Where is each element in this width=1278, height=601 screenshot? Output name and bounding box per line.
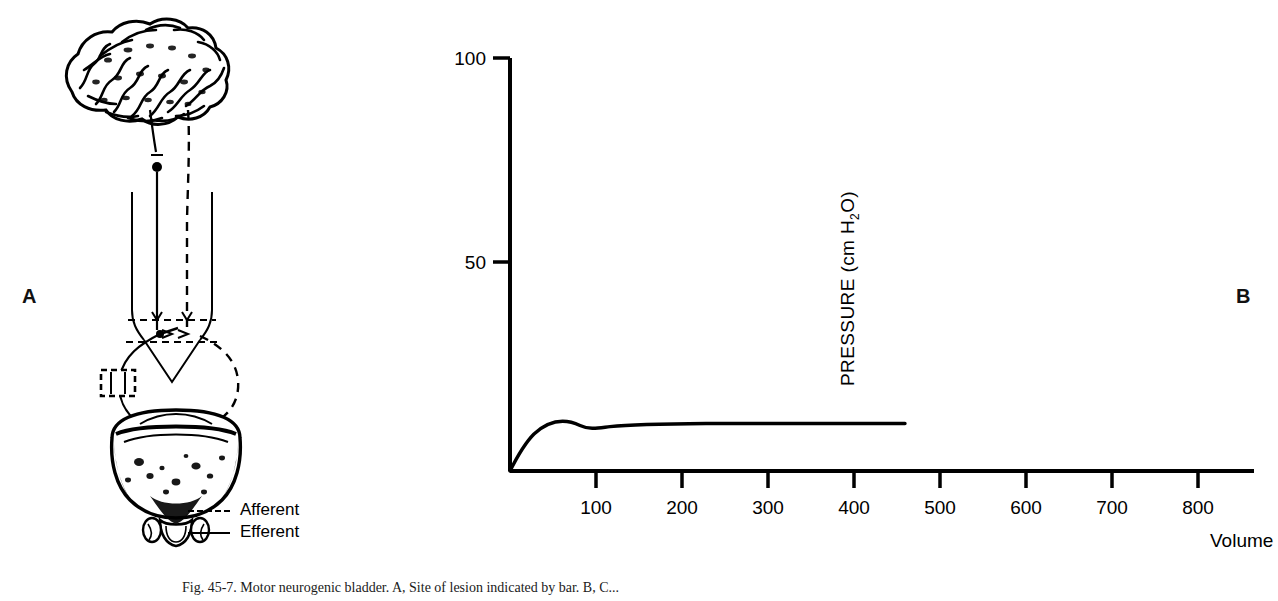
lesion-bar	[101, 370, 135, 396]
x-tick-labels: 100 200 300 400 500 600 700 800	[580, 497, 1214, 518]
x-tick-label: 300	[752, 497, 784, 518]
panel-b-cystometrogram: 100 200 300 400 500 600 700 800 100 50 P…	[430, 0, 1278, 601]
x-tick-label: 500	[924, 497, 956, 518]
legend-efferent-solid-icon	[188, 532, 230, 534]
x-axis-ticks	[596, 471, 1198, 488]
figure-caption: Fig. 45-7. Motor neurogenic bladder. A, …	[182, 580, 1102, 601]
x-tick-label: 400	[838, 497, 870, 518]
x-tick-label: 200	[666, 497, 698, 518]
afferent-pathway-upper	[187, 110, 189, 330]
efferent-neuron-soma	[152, 162, 162, 172]
y-axis-title-subscript: 2	[848, 213, 862, 220]
y-axis-title: PRESSURE (cm H2O)	[837, 191, 862, 386]
x-axis-title: Volume (ml)	[1210, 530, 1278, 552]
legend-afferent-label: Afferent	[240, 500, 299, 520]
bladder-illustration	[112, 410, 241, 546]
legend-afferent-dash-icon	[188, 510, 230, 512]
efferent-pathway-upper	[150, 110, 163, 330]
x-tick-label: 800	[1182, 497, 1214, 518]
y-tick-label: 50	[465, 252, 486, 273]
y-axis-title-tail: O)	[837, 191, 858, 213]
y-axis-ticks	[493, 58, 510, 262]
y-axis-title-main: PRESSURE (cm H	[837, 220, 858, 386]
spinal-cord	[126, 192, 218, 382]
pressure-curve	[510, 421, 905, 471]
panel-a-letter: A	[22, 285, 36, 308]
y-tick-labels: 100 50	[454, 48, 486, 273]
panel-a-diagram: Afferent Efferent	[0, 0, 430, 601]
legend-efferent-label: Efferent	[240, 522, 299, 542]
y-tick-label: 100	[454, 48, 486, 69]
x-tick-label: 100	[580, 497, 612, 518]
y-axis-title-wrap: PRESSURE (cm H2O)	[815, 150, 845, 390]
brain-illustration	[66, 19, 228, 124]
x-tick-label: 600	[1010, 497, 1042, 518]
x-tick-label: 700	[1096, 497, 1128, 518]
